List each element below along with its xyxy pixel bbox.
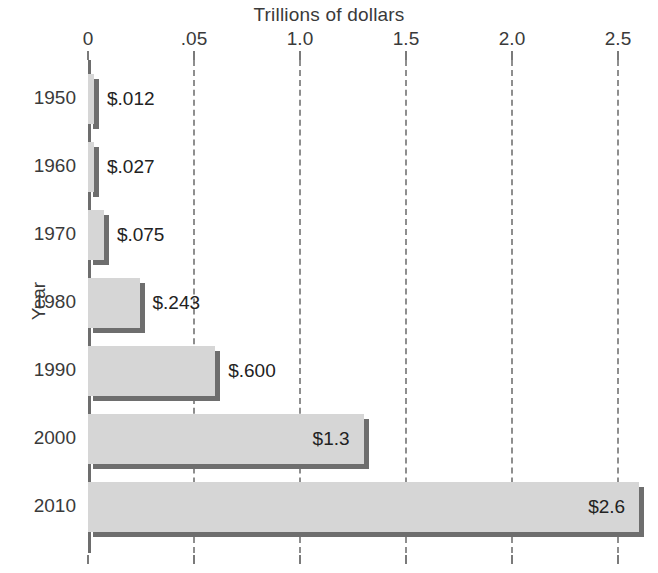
x-axis-tick-mark-bottom xyxy=(87,555,89,564)
bar-value-label: $2.6 xyxy=(588,496,625,518)
bar-value-label: $1.3 xyxy=(313,428,350,450)
bar: $.600 xyxy=(88,346,215,396)
bar-value-label: $.243 xyxy=(153,292,201,314)
bar-row: $.600 xyxy=(88,346,215,398)
x-axis-tick-mark-bottom xyxy=(193,555,195,564)
y-axis-category-label: 1970 xyxy=(34,223,76,245)
y-axis-category-label: 1990 xyxy=(34,359,76,381)
y-axis-category-label: 1950 xyxy=(34,87,76,109)
gridline xyxy=(299,60,301,553)
x-axis-tick-mark-bottom xyxy=(511,555,513,564)
bar-row: $.243 xyxy=(88,278,140,330)
y-axis-category-label: 2000 xyxy=(34,427,76,449)
bar: $.243 xyxy=(88,278,140,328)
x-axis-tick-label: 1.5 xyxy=(393,28,419,50)
bar-value-label: $.075 xyxy=(117,224,165,246)
bar-value-label: $.027 xyxy=(107,156,155,178)
x-axis-tick-label: .05 xyxy=(181,28,207,50)
bar: $.012 xyxy=(88,74,94,124)
x-axis-tick-mark-top xyxy=(87,51,89,60)
bar-chart: Trillions of dollars Year 19501960197019… xyxy=(0,0,658,573)
bar-row: $2.6 xyxy=(88,482,639,534)
gridline xyxy=(511,60,513,553)
bar: $2.6 xyxy=(88,482,639,532)
x-axis-tick-mark-top xyxy=(299,51,301,60)
x-axis-tick-mark-top xyxy=(193,51,195,60)
x-axis-tick-label: 2.0 xyxy=(499,28,525,50)
bar-row: $.075 xyxy=(88,210,104,262)
bar-row: $1.3 xyxy=(88,414,364,466)
x-axis-tick-mark-top xyxy=(511,51,513,60)
y-axis-category-label: 1980 xyxy=(34,291,76,313)
bar-row: $.012 xyxy=(88,74,94,126)
gridline xyxy=(405,60,407,553)
bar: $1.3 xyxy=(88,414,364,464)
x-axis-tick-mark-top xyxy=(405,51,407,60)
bar-value-label: $.012 xyxy=(107,88,155,110)
chart-title: Trillions of dollars xyxy=(0,4,658,26)
x-axis-tick-mark-bottom xyxy=(617,555,619,564)
x-axis-tick-label: 0 xyxy=(83,28,94,50)
y-axis-category-label: 2010 xyxy=(34,495,76,517)
x-axis-tick-label: 1.0 xyxy=(287,28,313,50)
gridline xyxy=(617,60,619,553)
bar-row: $.027 xyxy=(88,142,94,194)
y-axis-category-label: 1960 xyxy=(34,155,76,177)
x-axis-tick-mark-top xyxy=(617,51,619,60)
x-axis-tick-mark-bottom xyxy=(299,555,301,564)
bar: $.075 xyxy=(88,210,104,260)
bar: $.027 xyxy=(88,142,94,192)
bar-value-label: $.600 xyxy=(228,360,276,382)
x-axis-tick-mark-bottom xyxy=(405,555,407,564)
y-axis-category-labels: 1950196019701980199020002010 xyxy=(0,60,88,553)
x-axis-tick-label: 2.5 xyxy=(605,28,631,50)
plot-area: 0.051.01.52.02.5 $.012$.027$.075$.243$.6… xyxy=(88,60,658,553)
